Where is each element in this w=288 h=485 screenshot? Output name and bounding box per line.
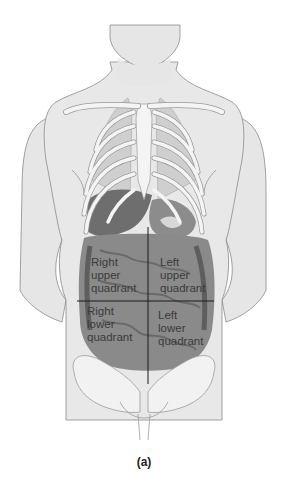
label-right-lower-quadrant: Right lower quadrant bbox=[87, 305, 132, 344]
label-right-upper-quadrant: Right upper quadrant bbox=[91, 256, 136, 295]
label-left-upper-quadrant: Left upper quadrant bbox=[160, 256, 205, 295]
anatomy-figure: Right upper quadrant Left upper quadrant… bbox=[0, 0, 288, 485]
label-left-lower-quadrant: Left lower quadrant bbox=[158, 309, 203, 348]
torso-illustration bbox=[0, 0, 288, 485]
figure-caption: (a) bbox=[0, 455, 288, 469]
intestines bbox=[79, 234, 215, 371]
